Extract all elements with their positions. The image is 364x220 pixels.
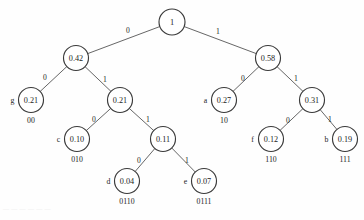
edge-bit-label-n031-f: 0 (286, 116, 290, 125)
leaf-symbol-b: b (325, 135, 329, 144)
node-value-root: 1 (170, 18, 174, 27)
node-value-n031: 0.31 (305, 96, 319, 105)
tree-edge-n058-to-a (233, 67, 259, 92)
edge-bit-label-root-n042: 0 (126, 26, 130, 35)
edge-bit-label-root-n058: 1 (216, 27, 220, 36)
node-value-a: 0.27 (217, 96, 231, 105)
node-value-d: 0.04 (120, 177, 134, 186)
tree-edge-n058-to-n031 (277, 67, 303, 92)
leaf-symbol-g: g (11, 96, 15, 105)
node-value-b: 0.19 (338, 135, 352, 144)
huffman-tree-figure: 01010101010110.420.580.21g000.210.27a100… (0, 0, 364, 220)
tree-edge-root-to-n058 (184, 27, 256, 54)
edge-bit-label-n042-n021: 1 (103, 75, 107, 84)
tree-edge-n042-to-n021 (85, 67, 111, 92)
tree-edge-n031-to-f (280, 109, 303, 131)
tree-edge-n021-to-n011 (129, 108, 153, 130)
node-value-n021: 0.21 (113, 96, 127, 105)
node-value-n011: 0.11 (156, 135, 170, 144)
leaf-symbol-e: e (184, 177, 188, 186)
leaf-symbol-c: c (57, 135, 61, 144)
edge-bit-label-n011-d: 0 (137, 156, 141, 165)
leaf-symbol-a: a (204, 96, 208, 105)
edge-bit-label-n058-n031: 1 (294, 74, 298, 83)
edge-bit-label-n058-a: 0 (241, 74, 245, 83)
edge-bit-label-n021-c: 0 (92, 115, 96, 124)
edge-bit-label-n011-e: 1 (185, 156, 189, 165)
leaf-code-b: 111 (339, 155, 350, 164)
leaf-code-d: 0110 (119, 197, 134, 206)
edge-bit-label-n042-g: 0 (43, 73, 47, 82)
tree-diagram: 01010101010110.420.580.21g000.210.27a100… (0, 0, 364, 220)
labels-layer: 01010101010110.420.580.21g000.210.27a100… (11, 18, 353, 206)
leaf-code-g: 00 (27, 116, 35, 125)
node-value-n042: 0.42 (69, 54, 83, 63)
leaf-code-a: 10 (220, 116, 228, 125)
leaf-code-f: 110 (265, 155, 277, 164)
leaf-symbol-f: f (251, 135, 254, 144)
tree-edge-root-to-n042 (88, 27, 160, 54)
node-value-g: 0.21 (24, 96, 38, 105)
node-value-c: 0.10 (70, 135, 84, 144)
leaf-code-e: 0111 (196, 197, 211, 206)
leaf-code-c: 010 (71, 155, 83, 164)
footer-note: — — — — — — (3, 206, 51, 212)
tree-edge-n021-to-c (86, 108, 110, 130)
node-value-n058: 0.58 (261, 54, 275, 63)
tree-edge-n011-to-e (172, 148, 196, 172)
node-value-f: 0.12 (264, 135, 278, 144)
leaf-symbol-d: d (107, 177, 111, 186)
edge-bit-label-n031-b: 1 (328, 115, 332, 124)
node-value-e: 0.07 (197, 177, 211, 186)
edge-bit-label-n021-n011: 1 (146, 115, 150, 124)
